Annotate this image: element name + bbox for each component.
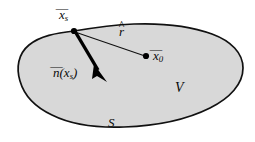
label-field-point: —x0	[153, 49, 163, 64]
normal-close-paren: )	[73, 65, 77, 80]
closed-surface-volume-diagram: —xs ^r —x0 —n(xs) V S	[0, 0, 255, 142]
surface-point-marker	[71, 28, 77, 34]
label-unit-vector: ^r	[119, 25, 124, 38]
field-point-symbol: —x	[153, 49, 159, 62]
label-normal-vector: —n(xs)	[53, 66, 77, 81]
hat-accent-icon: ^	[119, 20, 125, 32]
diagram-canvas	[0, 0, 255, 142]
overbar-accent-icon: —	[150, 43, 162, 55]
label-surface: S	[108, 116, 115, 129]
normal-vector-symbol: —n	[53, 66, 60, 79]
surface-point-symbol: —x	[59, 8, 65, 21]
overbar-accent-icon: —	[56, 2, 68, 14]
field-point-marker	[143, 53, 149, 59]
label-surface-point: —xs	[59, 8, 68, 23]
volume-region-shape	[18, 24, 243, 127]
unit-vector-symbol: ^r	[119, 25, 124, 38]
overbar-accent-icon: —	[50, 60, 62, 72]
label-volume: V	[175, 81, 184, 95]
